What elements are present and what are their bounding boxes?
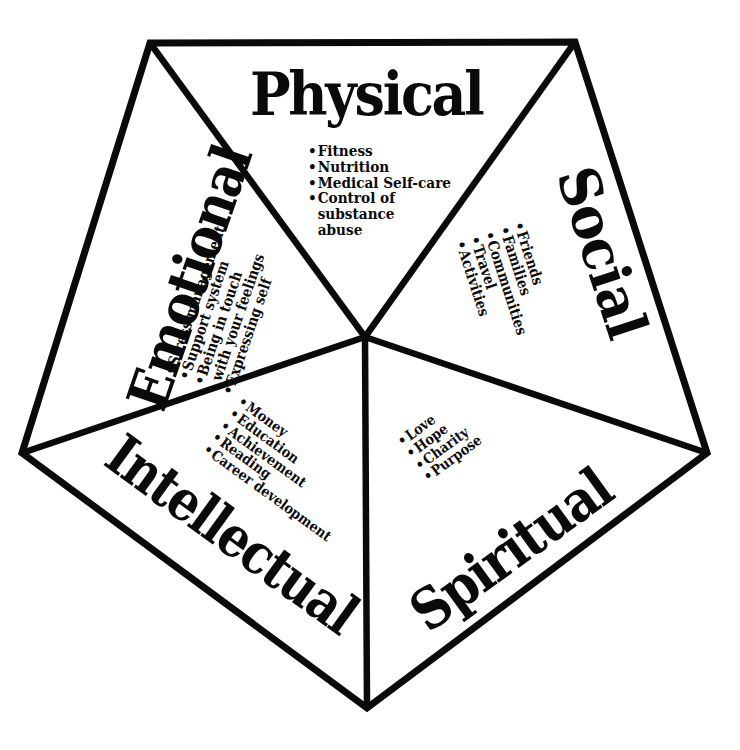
section-list-physical: •Fitness•Nutrition•Medical Self-care•Con… — [308, 143, 451, 238]
list-item: •Control ofsubstanceabuse — [308, 190, 451, 237]
list-item-continuation: abuse — [318, 222, 451, 238]
divider-spiritual-intellectual — [365, 337, 367, 708]
section-title-physical: Physical — [250, 64, 483, 124]
bullet-icon: • — [308, 190, 317, 206]
